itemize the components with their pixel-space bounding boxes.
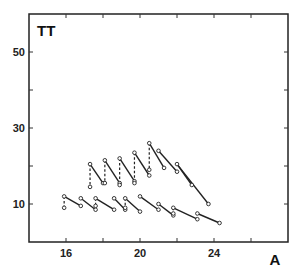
data-point-marker — [103, 181, 107, 185]
data-point-marker — [157, 202, 161, 206]
data-point-marker — [147, 174, 151, 178]
data-point-marker — [133, 181, 137, 185]
data-point-marker — [123, 197, 127, 201]
solid-segment — [96, 198, 115, 209]
y-ticks — [29, 52, 288, 204]
data-point-marker — [112, 197, 116, 201]
data-point-marker — [94, 197, 98, 201]
data-point-marker — [79, 197, 83, 201]
x-tick-label-24: 24 — [208, 247, 221, 259]
data-point-marker — [133, 151, 137, 155]
data-point-marker — [172, 212, 176, 216]
x-axis-label: A — [270, 251, 281, 268]
data-point-marker — [88, 185, 92, 189]
data-point-marker — [62, 206, 66, 210]
data-point-marker — [218, 221, 222, 225]
data-point-marker — [175, 162, 179, 166]
data-point-marker — [175, 170, 179, 174]
data-point-marker — [162, 166, 166, 170]
data-point-marker — [196, 217, 200, 221]
solid-segment — [120, 158, 135, 181]
solid-segment — [105, 160, 120, 183]
data-series — [62, 141, 221, 224]
solid-segment — [197, 214, 219, 224]
x-tick-label-16: 16 — [60, 247, 72, 259]
solid-segment — [90, 164, 103, 183]
data-point-marker — [207, 202, 211, 206]
data-point-marker — [147, 168, 151, 172]
solid-segment — [159, 151, 178, 172]
y-tick-label-50: 50 — [13, 46, 25, 58]
solid-segment — [140, 196, 159, 209]
data-point-marker — [112, 208, 116, 212]
data-point-marker — [118, 157, 122, 161]
data-point-marker — [172, 206, 176, 210]
data-point-marker — [103, 159, 107, 163]
data-point-marker — [62, 195, 66, 199]
data-point-marker — [147, 141, 151, 145]
data-point-marker — [196, 212, 200, 216]
chart-figure: 50 30 10 16 20 24 A TT — [0, 0, 301, 271]
data-point-marker — [190, 183, 194, 187]
data-point-marker — [138, 210, 142, 214]
solid-segment — [134, 153, 149, 176]
data-point-marker — [94, 204, 98, 208]
solid-segment — [64, 196, 81, 206]
solid-segment — [173, 208, 197, 219]
y-tick-label-30: 30 — [13, 122, 25, 134]
x-tick-label-20: 20 — [134, 247, 146, 259]
data-point-marker — [118, 183, 122, 187]
panel-label: TT — [37, 22, 55, 39]
data-point-marker — [138, 195, 142, 199]
solid-segment — [81, 198, 96, 209]
data-point-marker — [157, 149, 161, 153]
y-tick-label-10: 10 — [13, 198, 25, 210]
data-point-marker — [88, 162, 92, 166]
data-point-marker — [157, 208, 161, 212]
data-point-marker — [79, 204, 83, 208]
data-point-marker — [94, 208, 98, 212]
data-point-marker — [123, 206, 127, 210]
